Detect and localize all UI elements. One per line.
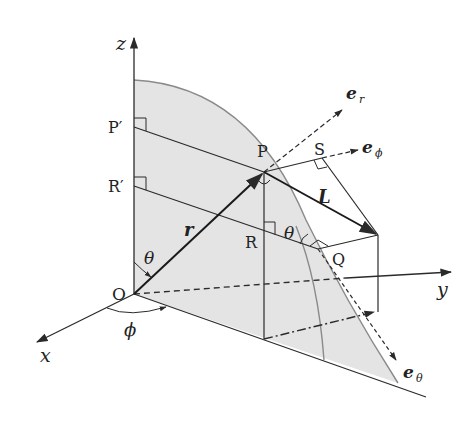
point-p-label: P [257,142,268,161]
x-axis-label: x [40,344,51,366]
vector-l-label: L [317,186,331,207]
y-axis-label: y [436,278,448,300]
phi-label: ϕ [124,319,136,340]
point-rprime-label: R′ [108,177,124,196]
z-axis-label: z [115,32,127,54]
e-r-subscript: r [359,93,365,106]
vector-r-label: r [184,219,195,240]
e-phi-label: e [362,137,373,157]
e-theta-label: e [403,362,414,382]
point-r-label: R [245,233,258,252]
line-q-ltip [318,235,378,249]
e-phi-subscript: ϕ [375,147,383,160]
origin-label: O [112,284,126,304]
e-r-label: e [346,83,357,103]
spherical-coordinates-diagram: z y x O P′ R′ P S R Q r L e r e ϕ e θ θ … [0,0,473,430]
theta-origin-label: θ [144,248,154,268]
y-axis [346,272,451,278]
e-theta-subscript: θ [416,372,423,385]
phi-angle-arc [107,307,166,313]
theta-r-label: θ [284,223,294,243]
point-s-label: S [314,140,325,159]
e-phi-vector [322,150,358,158]
point-q-label: Q [332,250,345,269]
point-pprime-label: P′ [108,118,123,137]
